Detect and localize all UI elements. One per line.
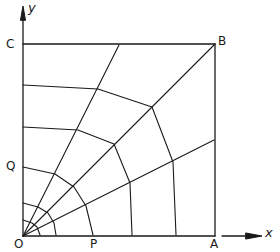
radial-lines: [23, 44, 215, 236]
web-grid-diagram: C B Q O P A x y: [0, 0, 280, 252]
label-P: P: [90, 238, 97, 250]
label-O: O: [14, 238, 23, 250]
label-B: B: [218, 35, 226, 47]
label-x-axis: x: [265, 227, 273, 239]
diagram-canvas: [0, 0, 280, 252]
radial-45deg: [23, 44, 215, 236]
label-Q: Q: [6, 160, 15, 172]
label-C: C: [6, 38, 14, 50]
x-axis-arrow-icon: [246, 233, 262, 239]
label-y-axis: y: [28, 2, 36, 14]
label-A: A: [210, 238, 218, 250]
y-axis-arrow-icon: [21, 6, 26, 20]
